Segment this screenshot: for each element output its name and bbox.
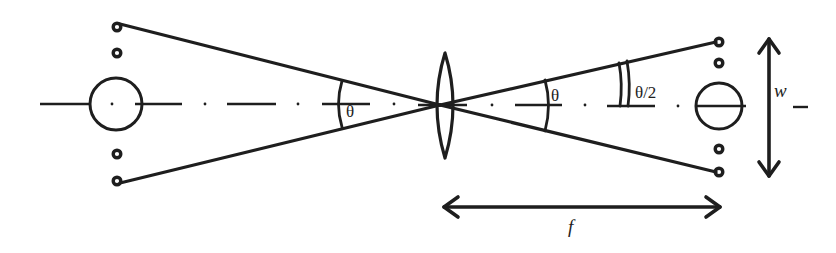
half-angle-arc: [619, 61, 629, 106]
image-point-icon: [715, 59, 723, 67]
focal-length-double-arrow-icon: [444, 197, 720, 217]
optical-axis: [40, 103, 808, 108]
image-point-icon: [715, 168, 723, 176]
right-angle-label: θ: [551, 86, 559, 105]
image-point-icon: [715, 145, 723, 153]
half-angle-label: θ/2: [635, 83, 656, 102]
focal-length-label: f: [568, 216, 576, 237]
left-object-plane: [90, 23, 142, 185]
left-angle-label: θ: [346, 102, 354, 121]
width-label: w: [774, 80, 787, 101]
image-point-icon: [715, 38, 723, 46]
optics-diagram: θ θ θ/2 w f: [0, 0, 836, 253]
aperture-point-icon: [113, 49, 121, 57]
right-rays: [440, 42, 716, 172]
left-source-circle-icon: [90, 78, 142, 130]
width-double-arrow-icon: [759, 39, 779, 176]
aperture-point-icon: [113, 150, 121, 158]
